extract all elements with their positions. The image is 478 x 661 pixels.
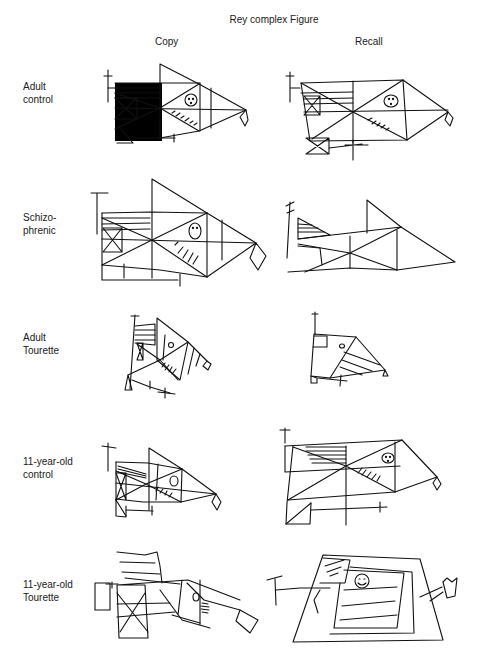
drawing-11yo-control-recall xyxy=(280,428,441,525)
drawing-schizophrenic-copy xyxy=(91,179,266,286)
drawing-adult-tourette-recall xyxy=(311,312,388,386)
drawing-adult-control-recall xyxy=(286,72,453,160)
drawing-11yo-tourette-copy xyxy=(95,552,258,638)
drawing-schizophrenic-recall xyxy=(286,200,455,272)
drawing-11yo-tourette-recall xyxy=(267,555,457,642)
drawing-adult-control-copy xyxy=(104,64,248,143)
drawing-11yo-control-copy xyxy=(102,443,221,517)
drawing-adult-tourette-copy xyxy=(125,315,211,398)
rey-figure-drawings xyxy=(0,0,478,661)
